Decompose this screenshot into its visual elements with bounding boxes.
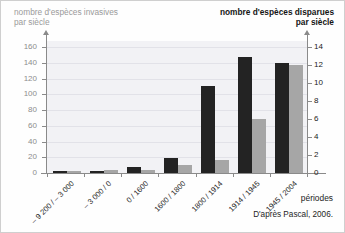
- bar-extinct-species: [178, 165, 192, 173]
- right-tick-label: 12: [314, 61, 344, 69]
- x-tick-mark: [121, 173, 122, 177]
- gridline: [47, 110, 307, 111]
- bar-invasive-species: [275, 63, 289, 173]
- right-tick-mark: [308, 173, 312, 174]
- right-tick-mark: [308, 155, 312, 156]
- left-axis-arrow-icon: [43, 30, 49, 35]
- right-axis-line: [307, 34, 308, 174]
- left-tick-label: 120: [0, 75, 37, 83]
- plot-inner: [47, 41, 307, 173]
- right-tick-mark: [308, 119, 312, 120]
- x-axis-title: périodes: [301, 193, 333, 203]
- left-tick-mark: [42, 157, 46, 158]
- left-tick-mark: [42, 63, 46, 64]
- gridline: [47, 63, 307, 64]
- source-note: D'après Pascal, 2006.: [253, 210, 333, 219]
- left-tick-label: 60: [0, 122, 37, 130]
- left-tick-label: 80: [0, 106, 37, 114]
- right-tick-label: 6: [314, 115, 344, 123]
- right-tick-label: 4: [314, 133, 344, 141]
- x-tick-mark: [84, 173, 85, 177]
- right-tick-mark: [308, 65, 312, 66]
- left-tick-label: 0: [0, 169, 37, 177]
- right-tick-label: 14: [314, 43, 344, 51]
- x-tick-mark: [196, 173, 197, 177]
- right-axis-title: nombre d'espèces disparues par siècle: [220, 7, 334, 27]
- x-tick-mark: [47, 173, 48, 177]
- bar-extinct-species: [252, 119, 266, 173]
- bar-invasive-species: [53, 171, 67, 173]
- bar-invasive-species: [90, 171, 104, 173]
- bar-extinct-species: [104, 170, 118, 173]
- gridline: [47, 126, 307, 127]
- left-axis-line: [46, 34, 47, 174]
- bar-invasive-species: [238, 57, 252, 173]
- gridline: [47, 142, 307, 143]
- bar-extinct-species: [215, 160, 229, 173]
- right-tick-label: 0: [314, 169, 344, 177]
- left-tick-label: 140: [0, 59, 37, 67]
- bar-invasive-species: [201, 86, 215, 173]
- right-tick-mark: [308, 83, 312, 84]
- left-tick-mark: [42, 79, 46, 80]
- left-tick-mark: [42, 94, 46, 95]
- bar-extinct-species: [289, 65, 303, 173]
- bar-invasive-species: [164, 158, 178, 173]
- left-tick-label: 100: [0, 90, 37, 98]
- left-tick-mark: [42, 126, 46, 127]
- gridline: [47, 94, 307, 95]
- left-tick-label: 20: [0, 153, 37, 161]
- right-tick-label: 10: [314, 79, 344, 87]
- x-tick-mark: [270, 173, 271, 177]
- plot-area: [47, 41, 307, 173]
- x-tick-mark: [158, 173, 159, 177]
- right-tick-mark: [308, 101, 312, 102]
- right-tick-label: 2: [314, 151, 344, 159]
- bar-extinct-species: [141, 170, 155, 173]
- left-tick-mark: [42, 110, 46, 111]
- right-tick-label: 8: [314, 97, 344, 105]
- x-tick-mark: [233, 173, 234, 177]
- right-tick-mark: [308, 137, 312, 138]
- left-tick-mark: [42, 142, 46, 143]
- chart-figure: nombre d'espèces invasives par siècle no…: [0, 0, 345, 233]
- left-tick-label: 160: [0, 43, 37, 51]
- bar-invasive-species: [127, 167, 141, 173]
- left-tick-label: 40: [0, 138, 37, 146]
- left-axis-title: nombre d'espèces invasives par siècle: [14, 7, 118, 27]
- bar-extinct-species: [67, 171, 81, 173]
- gridline: [47, 47, 307, 48]
- gridline: [47, 79, 307, 80]
- x-tick-mark: [307, 173, 308, 177]
- left-tick-mark: [42, 47, 46, 48]
- right-tick-mark: [308, 47, 312, 48]
- left-tick-mark: [42, 173, 46, 174]
- right-axis-arrow-icon: [304, 30, 310, 35]
